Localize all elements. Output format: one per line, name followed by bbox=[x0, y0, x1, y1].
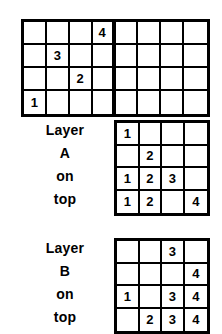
layer-a-grid: 12123124 bbox=[114, 120, 210, 216]
layer-a-label-line-1: Layer bbox=[20, 122, 110, 138]
grid-cell: 3 bbox=[162, 286, 185, 309]
layer-a-section: Layer A on top 12123124 bbox=[0, 118, 222, 218]
grid-cell: 1 bbox=[117, 168, 140, 191]
layer-b-section: Layer B on top 34134234 bbox=[0, 236, 222, 331]
layer-b-label-line-4: top bbox=[20, 309, 110, 325]
grid-cell: 1 bbox=[24, 91, 47, 114]
grid-cell bbox=[47, 91, 70, 114]
grid-cell: 2 bbox=[140, 146, 163, 169]
grid-cell bbox=[116, 91, 139, 114]
grid-cell bbox=[161, 22, 184, 45]
layer-a-label-line-4: top bbox=[20, 191, 110, 207]
grid-cell: 3 bbox=[162, 241, 185, 264]
grid-cell bbox=[185, 241, 208, 264]
grid-cell: 1 bbox=[117, 123, 140, 146]
grid-cell: 4 bbox=[185, 286, 208, 309]
grid-cell bbox=[185, 168, 208, 191]
grid-cell bbox=[117, 241, 140, 264]
grid-cell: 2 bbox=[140, 191, 163, 214]
grid-cell bbox=[117, 264, 140, 287]
grid-cell bbox=[162, 146, 185, 169]
grid-cell bbox=[161, 45, 184, 68]
grid-cell bbox=[116, 45, 139, 68]
grid-cell: 4 bbox=[185, 309, 208, 332]
grid-cell bbox=[117, 309, 140, 332]
grid-cell bbox=[47, 68, 70, 91]
grid-cell bbox=[161, 68, 184, 91]
grid-cell bbox=[93, 68, 116, 91]
grid-cell bbox=[184, 91, 207, 114]
layer-b-grid: 34134234 bbox=[114, 238, 210, 334]
grid-cell: 3 bbox=[162, 309, 185, 332]
layer-b-label-line-1: Layer bbox=[20, 240, 110, 256]
grid-cell bbox=[70, 91, 93, 114]
grid-cell bbox=[70, 22, 93, 45]
grid-cell: 1 bbox=[117, 191, 140, 214]
grid-cell bbox=[140, 123, 163, 146]
grid-cell bbox=[116, 68, 139, 91]
grid-cell bbox=[185, 146, 208, 169]
grid-cell bbox=[162, 123, 185, 146]
layer-b-label-line-3: on bbox=[20, 286, 110, 302]
grid-cell bbox=[140, 286, 163, 309]
grid-cell bbox=[138, 45, 161, 68]
grid-cell bbox=[140, 264, 163, 287]
grid-cell: 4 bbox=[93, 22, 116, 45]
grid-cell: 2 bbox=[140, 168, 163, 191]
grid-cell bbox=[140, 241, 163, 264]
grid-cell bbox=[161, 91, 184, 114]
grid-cell bbox=[24, 45, 47, 68]
combined-top-grid: 4321 bbox=[21, 19, 210, 117]
grid-cell bbox=[47, 22, 70, 45]
grid-cell: 4 bbox=[185, 264, 208, 287]
grid-cell bbox=[162, 191, 185, 214]
layer-b-label-line-2: B bbox=[20, 263, 110, 279]
grid-cell bbox=[117, 146, 140, 169]
grid-cell: 2 bbox=[140, 309, 163, 332]
grid-cell bbox=[184, 68, 207, 91]
layer-a-label-line-3: on bbox=[20, 168, 110, 184]
grid-cell: 4 bbox=[185, 191, 208, 214]
grid-cell: 3 bbox=[47, 45, 70, 68]
grid-cell: 2 bbox=[70, 68, 93, 91]
grid-cell bbox=[184, 45, 207, 68]
grid-cell bbox=[24, 22, 47, 45]
grid-cell bbox=[185, 123, 208, 146]
grid-cell bbox=[138, 91, 161, 114]
grid-cell bbox=[184, 22, 207, 45]
layer-a-label-line-2: A bbox=[20, 145, 110, 161]
grid-cell bbox=[93, 91, 116, 114]
grid-cell bbox=[24, 68, 47, 91]
grid-cell bbox=[138, 68, 161, 91]
grid-cell: 3 bbox=[162, 168, 185, 191]
grid-cell bbox=[162, 264, 185, 287]
grid-cell bbox=[93, 45, 116, 68]
grid-cell bbox=[70, 45, 93, 68]
grid-cell: 1 bbox=[117, 286, 140, 309]
grid-cell bbox=[116, 22, 139, 45]
grid-cell bbox=[138, 22, 161, 45]
